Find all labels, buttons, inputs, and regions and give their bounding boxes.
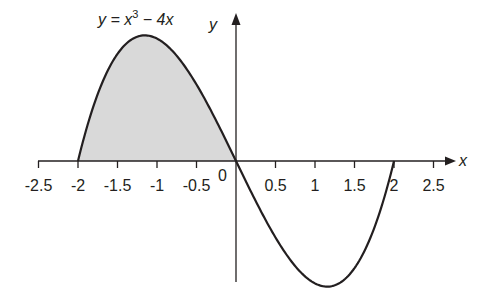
origin-label: 0 <box>218 167 227 184</box>
cubic-graph: -2.5-2-1.5-1-0.50.511.522.5 0 x y y = x3… <box>0 0 477 299</box>
x-tick-label: -2.5 <box>25 177 53 194</box>
x-tick-label: -0.5 <box>183 177 211 194</box>
y-axis-label: y <box>208 16 218 33</box>
equation-prefix: y = x <box>97 11 133 28</box>
x-axis-label: x <box>458 152 468 169</box>
x-tick-label: 2 <box>390 177 399 194</box>
x-tick-label: -1 <box>150 177 164 194</box>
x-tick-label: 2.5 <box>422 177 444 194</box>
x-tick-label: -1.5 <box>104 177 132 194</box>
y-axis-arrow-icon <box>232 13 241 25</box>
x-axis-arrow-icon <box>445 157 456 166</box>
x-tick-label: 1.5 <box>343 177 365 194</box>
x-tick-label: 0.5 <box>264 177 286 194</box>
x-tick-label: 1 <box>311 177 320 194</box>
x-tick-labels: -2.5-2-1.5-1-0.50.511.522.5 <box>25 177 445 194</box>
x-tick-label: -2 <box>71 177 85 194</box>
equation-label: y = x3 − 4x <box>97 8 174 28</box>
equation-suffix: − 4x <box>138 11 174 28</box>
shaded-area <box>78 35 236 161</box>
